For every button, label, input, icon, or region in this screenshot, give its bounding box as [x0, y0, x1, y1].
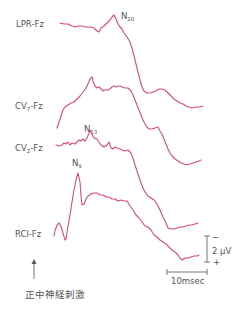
trace-rcl-fz	[54, 173, 199, 260]
channel-label-cv2: CV2-Fz	[15, 143, 43, 154]
time-scale-bar: 10msec	[167, 269, 207, 286]
sep-waveform-figure: LPR-Fz CV7-Fz CV2-Fz RCl-Fz N20 N13 N9 −…	[0, 0, 250, 320]
peak-label-n13: N13	[84, 124, 98, 135]
trace-cv2-fz	[56, 130, 198, 229]
channel-label-rcl: RCl-Fz	[15, 229, 42, 239]
scale-time-label: 10msec	[171, 276, 205, 286]
trace-cv7-fz	[57, 77, 201, 165]
peak-label-n9: N9	[72, 158, 82, 169]
scale-amplitude-label: 2 μV	[212, 246, 232, 256]
peak-label-n20: N20	[121, 11, 135, 22]
stimulus-arrow-icon	[32, 259, 37, 279]
channel-label-cv7: CV7-Fz	[15, 101, 43, 112]
stimulus-label: 正中神経刺激	[25, 289, 85, 300]
channel-label-lpr: LPR-Fz	[16, 19, 44, 29]
scale-plus-sign: +	[213, 257, 220, 267]
amplitude-scale-bar: − 2 μV +	[204, 232, 232, 267]
scale-minus-sign: −	[212, 232, 219, 242]
